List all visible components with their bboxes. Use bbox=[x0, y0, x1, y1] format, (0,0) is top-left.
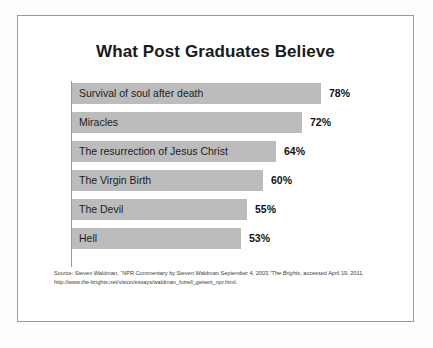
bar-value-label: 78% bbox=[329, 83, 350, 104]
bar-category-label: The Devil bbox=[79, 199, 123, 220]
bar-chart-plot-area: Survival of soul after death78%Miracles7… bbox=[71, 79, 391, 267]
bar-category-label: The resurrection of Jesus Christ bbox=[79, 141, 228, 162]
page-title: What Post Graduates Believe bbox=[18, 42, 413, 62]
bar-row: Survival of soul after death78% bbox=[72, 83, 391, 104]
source-line1-part2: , bbox=[300, 270, 302, 276]
bar-category-label: Survival of soul after death bbox=[79, 83, 203, 104]
bar-row: The resurrection of Jesus Christ64% bbox=[72, 141, 391, 162]
bar-row: The Devil55% bbox=[72, 199, 391, 220]
bar-category-label: Hell bbox=[79, 228, 97, 249]
bar-fill bbox=[72, 228, 241, 249]
bar-value-label: 64% bbox=[284, 141, 305, 162]
source-line1-part1: Source: Steven Waldman, “NPR Commentary … bbox=[54, 270, 272, 276]
chart-page: What Post Graduates Believe Survival of … bbox=[0, 0, 433, 348]
bar-value-label: 53% bbox=[249, 228, 270, 249]
chart-card: What Post Graduates Believe Survival of … bbox=[17, 15, 414, 322]
bar-value-label: 55% bbox=[255, 199, 276, 220]
source-publication-name: The Brights bbox=[272, 270, 301, 276]
bar-row: Hell53% bbox=[72, 228, 391, 249]
bar-value-label: 72% bbox=[310, 112, 331, 133]
source-citation: Source: Steven Waldman, “NPR Commentary … bbox=[54, 269, 384, 287]
bar-value-label: 60% bbox=[271, 170, 292, 191]
bar-row: Miracles72% bbox=[72, 112, 391, 133]
bar-category-label: The Virgin Birth bbox=[79, 170, 151, 191]
bar-category-label: Miracles bbox=[79, 112, 118, 133]
bar-series: Survival of soul after death78%Miracles7… bbox=[72, 83, 391, 257]
bar-row: The Virgin Birth60% bbox=[72, 170, 391, 191]
